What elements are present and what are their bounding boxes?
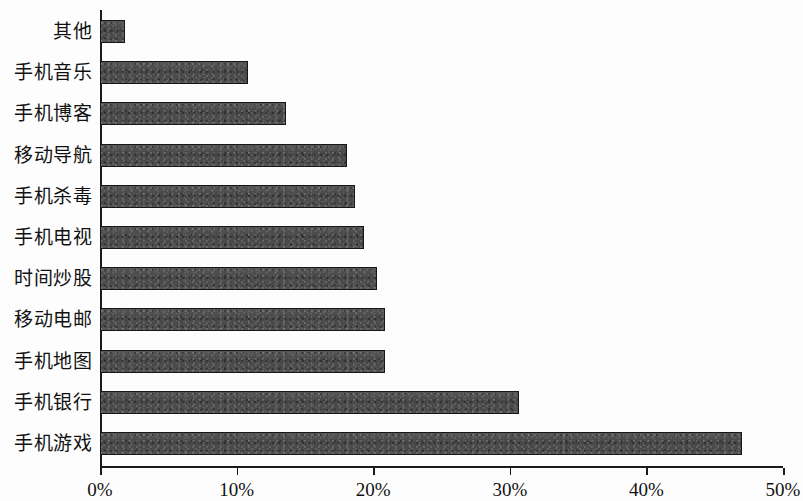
y-axis-label: 手机博客 <box>0 102 92 125</box>
x-axis-tick-label: 10% <box>192 479 282 501</box>
y-axis-label: 手机地图 <box>0 350 92 373</box>
y-axis-label: 手机杀毒 <box>0 185 92 208</box>
x-axis-tick-mark <box>783 468 785 475</box>
bar <box>100 61 248 84</box>
x-axis-tick-label: 30% <box>465 479 555 501</box>
x-axis-tick-mark <box>510 468 512 475</box>
bar <box>100 144 347 167</box>
y-axis-label: 手机电视 <box>0 226 92 249</box>
x-axis-tick-mark <box>646 468 648 475</box>
x-axis-line <box>100 466 783 468</box>
x-axis-tick-label: 50% <box>738 479 803 501</box>
bar <box>100 391 519 414</box>
bar <box>100 350 385 373</box>
x-axis-tick-label: 0% <box>55 479 145 501</box>
x-axis-tick-mark <box>100 468 102 475</box>
x-axis-tick-label: 40% <box>601 479 691 501</box>
y-axis-label: 手机游戏 <box>0 432 92 455</box>
x-axis-tick-mark <box>237 468 239 475</box>
bar <box>100 267 377 290</box>
y-axis-label: 手机银行 <box>0 391 92 414</box>
bar <box>100 308 385 331</box>
bar-chart: 0%10%20%30%40%50% 其他手机音乐手机博客移动导航手机杀毒手机电视… <box>0 0 803 501</box>
y-axis-label: 时间炒股 <box>0 267 92 290</box>
bar <box>100 185 355 208</box>
y-axis-label: 移动电邮 <box>0 308 92 331</box>
x-axis-tick-mark <box>373 468 375 475</box>
y-axis-label: 手机音乐 <box>0 61 92 84</box>
bar <box>100 226 364 249</box>
y-axis-label: 移动导航 <box>0 144 92 167</box>
bar <box>100 20 125 43</box>
x-axis-tick-label: 20% <box>328 479 418 501</box>
bar <box>100 432 742 455</box>
y-axis-label: 其他 <box>0 20 92 43</box>
plot-area: 0%10%20%30%40%50% <box>100 10 783 468</box>
bar <box>100 102 286 125</box>
